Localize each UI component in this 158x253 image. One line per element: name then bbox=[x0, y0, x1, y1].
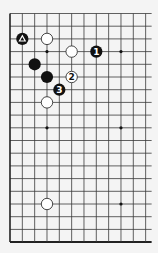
white-stone-body bbox=[41, 198, 52, 209]
white-stone-body bbox=[41, 33, 52, 44]
black-stone bbox=[29, 58, 41, 70]
star-point bbox=[45, 50, 48, 53]
black-stone-1: 1 bbox=[90, 46, 102, 58]
move-number-label: 2 bbox=[69, 72, 75, 82]
black-stone-body bbox=[29, 58, 41, 70]
white-stone-2: 2 bbox=[66, 71, 77, 82]
move-number-label: 1 bbox=[93, 47, 99, 57]
go-board: 123 bbox=[0, 0, 158, 253]
white-stone bbox=[41, 198, 52, 209]
white-stone bbox=[41, 97, 52, 108]
white-stone-body bbox=[66, 46, 77, 57]
white-stone-body bbox=[41, 97, 52, 108]
move-number-label: 3 bbox=[56, 85, 62, 95]
go-board-svg: 123 bbox=[0, 0, 158, 253]
black-stone-body bbox=[41, 71, 53, 83]
black-stone-triangle bbox=[16, 33, 28, 45]
grid-lines bbox=[10, 14, 152, 243]
star-point bbox=[119, 126, 122, 129]
star-point bbox=[119, 202, 122, 205]
star-point bbox=[119, 50, 122, 53]
black-stone bbox=[41, 71, 53, 83]
black-stone-3: 3 bbox=[53, 84, 65, 96]
star-point bbox=[45, 126, 48, 129]
white-stone bbox=[66, 46, 77, 57]
white-stone bbox=[41, 33, 52, 44]
